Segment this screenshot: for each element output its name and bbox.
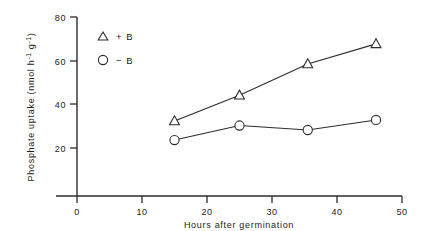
legend-label-minus-b: − B (116, 55, 134, 66)
figure-container: 80 60 40 20 0 10 20 30 40 50 Hours after… (0, 0, 428, 231)
x-tick-label: 0 (74, 207, 80, 217)
series-plus-b (170, 39, 381, 125)
series-minus-b (170, 115, 381, 144)
x-axis-title: Hours after germination (184, 220, 294, 230)
y-tick-label: 40 (55, 100, 66, 110)
series-markers-minus-b (170, 115, 381, 144)
series-line-minus-b (175, 120, 377, 140)
x-tick-label: 10 (136, 207, 147, 217)
y-tick-label: 20 (55, 144, 66, 154)
data-point-marker (235, 121, 244, 130)
y-axis-title: Phosphate uptake (nmol h-1 g-1) (25, 33, 36, 182)
circle-icon (98, 55, 107, 64)
y-axis-title-sup2: -1 (25, 36, 32, 43)
y-axis-title-sup1: -1 (25, 52, 32, 59)
y-axis-title-mid: g (26, 43, 36, 52)
x-axis-ticks (77, 196, 402, 203)
y-axis-ticks (70, 17, 77, 148)
legend-item-plus-b: + B (98, 31, 133, 42)
y-axis-title-tail: ) (26, 33, 36, 37)
x-tick-label: 30 (266, 207, 277, 217)
x-axis-tick-labels: 0 10 20 30 40 50 (74, 207, 407, 217)
y-tick-label: 60 (55, 57, 66, 67)
data-point-marker (371, 39, 381, 48)
line-chart: 80 60 40 20 0 10 20 30 40 50 Hours after… (0, 0, 428, 231)
data-point-marker (170, 135, 179, 144)
series-line-plus-b (175, 44, 377, 121)
x-tick-label: 20 (201, 207, 212, 217)
x-tick-label: 50 (396, 207, 407, 217)
x-tick-label: 40 (331, 207, 342, 217)
y-axis-tick-labels: 80 60 40 20 (55, 13, 66, 154)
legend-label-plus-b: + B (116, 31, 134, 42)
legend: + B − B (98, 31, 133, 66)
y-axis-title-main: Phosphate uptake (nmol h (26, 60, 36, 182)
data-point-marker (303, 125, 312, 134)
data-point-marker (170, 116, 180, 125)
triangle-icon (98, 32, 108, 40)
y-tick-label: 80 (55, 13, 66, 23)
data-point-marker (371, 115, 380, 124)
data-point-marker (235, 90, 245, 99)
legend-item-minus-b: − B (98, 55, 133, 66)
